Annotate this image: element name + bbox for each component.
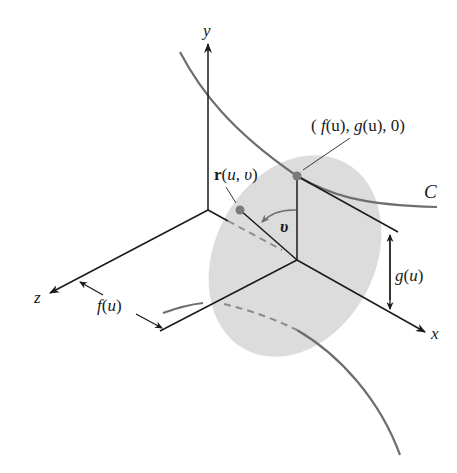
f-offset-label: f(u) bbox=[97, 296, 122, 315]
f-arrow-left bbox=[80, 282, 103, 295]
curve-point-dot bbox=[293, 172, 302, 181]
surface-point-label: r(u, υ) bbox=[214, 165, 258, 184]
f-arrow-right bbox=[136, 314, 162, 328]
g-height-label: g(u) bbox=[395, 266, 423, 285]
x-axis-label: x bbox=[430, 324, 439, 343]
surface-of-revolution-diagram: y z x ( f(u), g(u), 0) r(u, υ) υ C g(u) … bbox=[0, 0, 457, 473]
x-axis-hidden-segment bbox=[208, 210, 228, 221]
revolution-disk bbox=[175, 125, 416, 387]
curve-c-label: C bbox=[424, 181, 437, 202]
curve-point-label: ( f(u), g(u), 0) bbox=[311, 116, 405, 135]
fu-part: (u), bbox=[326, 116, 354, 135]
angle-v-label: υ bbox=[280, 217, 288, 236]
rotated-curve-lower bbox=[297, 330, 400, 455]
surface-point-leader bbox=[226, 187, 236, 203]
y-axis-label: y bbox=[201, 21, 211, 40]
z-axis bbox=[50, 210, 208, 293]
surface-point-dot bbox=[236, 206, 245, 215]
z-axis-label: z bbox=[33, 288, 41, 307]
